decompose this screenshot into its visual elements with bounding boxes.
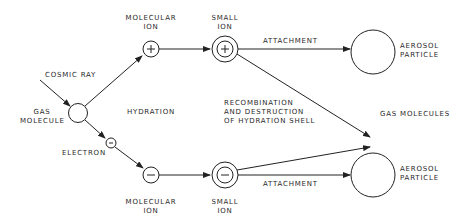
attachment-electron-arrow	[115, 147, 143, 168]
recombination-label: RECOMBINATION AND DESTRUCTION OF HYDRATI…	[224, 99, 315, 126]
aerosol-particle-bottom	[351, 153, 395, 197]
label-line: ION	[205, 207, 245, 216]
aerosol-particle-top	[351, 30, 395, 74]
gas-molecule-node	[69, 104, 88, 123]
aerosol-top-label: AEROSOL PARTICLE	[400, 42, 439, 60]
label-line: ION	[205, 23, 245, 32]
label-line: ION	[124, 207, 178, 216]
hydration-label: HYDRATION	[127, 108, 175, 117]
label-line: PARTICLE	[400, 174, 439, 183]
electron-arrow	[85, 120, 105, 138]
small-ion-neg-label: SMALL ION	[205, 198, 245, 216]
label-line: AEROSOL	[400, 165, 439, 174]
label-line: MOLECULE	[20, 117, 64, 126]
gas-molecule-label: GAS MOLECULE	[20, 108, 64, 126]
attachment-bottom-label: ATTACHMENT	[263, 180, 318, 189]
label-line: SMALL	[205, 14, 245, 23]
label-line: OF HYDRATION SHELL	[224, 117, 315, 126]
attachment-top-label: ATTACHMENT	[263, 37, 318, 46]
label-line: AEROSOL	[400, 42, 439, 51]
aerosol-bottom-label: AEROSOL PARTICLE	[400, 165, 439, 183]
ionization-arrow	[85, 56, 142, 106]
recombination-arrow-bottom	[237, 147, 370, 170]
label-line: GAS	[20, 108, 64, 117]
label-line: ION	[124, 23, 178, 32]
label-line: AND DESTRUCTION	[224, 108, 315, 117]
electron-label: ELECTRON	[62, 149, 106, 158]
label-line: SMALL	[205, 198, 245, 207]
molecular-ion-pos-label: MOLECULAR ION	[124, 14, 178, 32]
label-line: MOLECULAR	[124, 198, 178, 207]
label-line: RECOMBINATION	[224, 99, 315, 108]
molecular-ion-neg-label: MOLECULAR ION	[124, 198, 178, 216]
cosmic-ray-label: COSMIC RAY	[45, 71, 96, 80]
label-line: MOLECULAR	[124, 14, 178, 23]
cosmic-ray-arrow	[40, 80, 70, 106]
small-ion-pos-label: SMALL ION	[205, 14, 245, 32]
label-line: PARTICLE	[400, 51, 439, 60]
gas-molecules-label: GAS MOLECULES	[380, 110, 450, 119]
